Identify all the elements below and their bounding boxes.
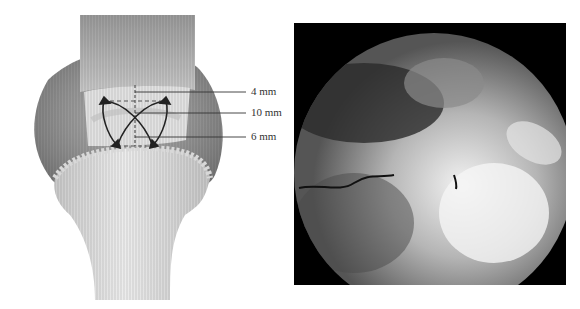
measurement-label-4mm: 4 mm — [251, 85, 276, 97]
measurement-label-10mm: 10 mm — [251, 106, 282, 118]
arthroscopy-svg — [294, 23, 566, 285]
bone — [54, 148, 210, 300]
tendon-proximal — [80, 15, 195, 92]
anatomical-illustration: 4 mm 10 mm 6 mm — [0, 0, 290, 309]
illustration-svg — [0, 0, 290, 309]
arthroscopic-image — [294, 23, 566, 285]
measurement-label-6mm: 6 mm — [251, 130, 276, 142]
